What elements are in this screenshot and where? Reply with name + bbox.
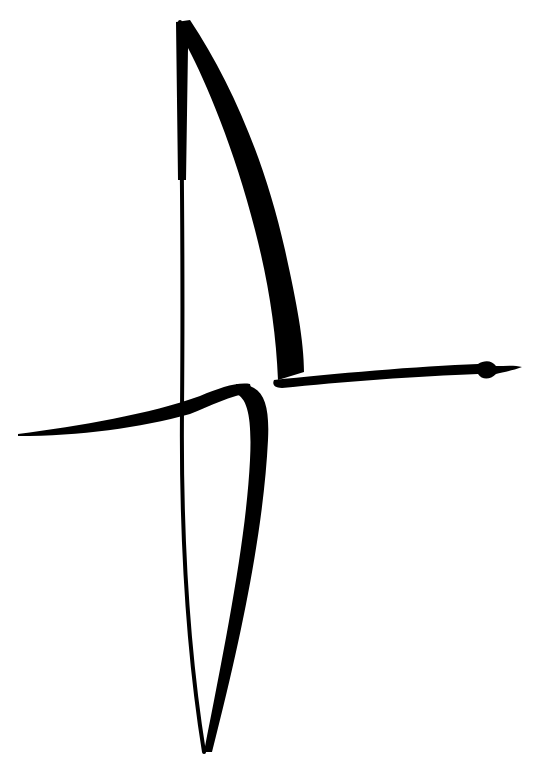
brush-strokes	[0, 0, 533, 769]
left-arm-stroke	[18, 384, 252, 436]
ink-drawing	[0, 0, 533, 769]
upper-sail-stroke	[176, 20, 304, 380]
lower-loop-stroke	[204, 384, 268, 752]
right-arm-stroke	[273, 361, 522, 388]
